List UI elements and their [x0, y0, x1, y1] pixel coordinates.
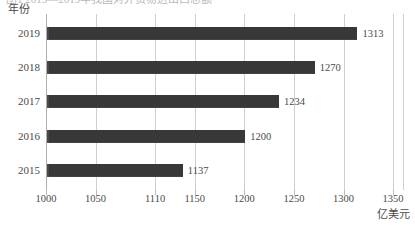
x-tick-label: 1300	[322, 193, 366, 205]
x-gridline	[344, 14, 345, 190]
bar-2016[interactable]	[47, 130, 245, 143]
x-gridline	[393, 14, 394, 190]
y-axis-title: 年份	[8, 3, 30, 16]
plot-right-edge	[403, 14, 404, 190]
bar-value-label-2019: 1313	[362, 27, 383, 40]
x-tick-label: 1110	[133, 193, 177, 205]
plot-area: 13131270123412001137	[46, 14, 403, 190]
bar-value-label-2016: 1200	[250, 130, 271, 143]
bar-2018[interactable]	[47, 61, 315, 74]
y-category-label-2018: 2018	[0, 61, 40, 74]
y-category-label-2016: 2016	[0, 130, 40, 143]
bar-2019[interactable]	[47, 27, 357, 40]
y-category-label-2017: 2017	[0, 95, 40, 108]
bar-value-label-2015: 1137	[188, 164, 209, 177]
x-tick-label: 1350	[371, 193, 415, 205]
x-tick-label: 1250	[272, 193, 316, 205]
x-tick-label: 1050	[74, 193, 118, 205]
y-category-label-2015: 2015	[0, 164, 40, 177]
x-tick-label: 1000	[24, 193, 68, 205]
x-tick-label: 1200	[222, 193, 266, 205]
bar-2017[interactable]	[47, 95, 279, 108]
x-axis-unit-label: 亿美元	[371, 208, 415, 221]
figure-caption-text: 图1 2015—2019年我国对外贸易进出口总额	[6, 0, 212, 5]
bar-value-label-2017: 1234	[284, 95, 305, 108]
bar-value-label-2018: 1270	[320, 61, 341, 74]
figure-caption-clipped: 图1 2015—2019年我国对外贸易进出口总额	[0, 0, 406, 9]
x-tick-label: 1150	[173, 193, 217, 205]
y-category-label-2019: 2019	[0, 27, 40, 40]
bar-2015[interactable]	[47, 164, 183, 177]
